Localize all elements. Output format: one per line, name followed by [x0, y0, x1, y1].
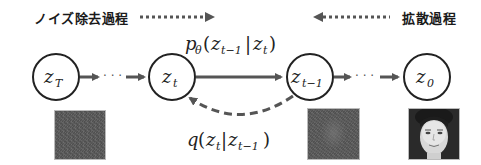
- node-z0: z 0: [404, 54, 450, 100]
- svg-text:q: q: [187, 129, 199, 150]
- svg-text:(: (: [198, 129, 205, 150]
- face-illustration: [409, 109, 459, 159]
- node-zt-minus-1: z t−1: [287, 54, 333, 100]
- svg-text:0: 0: [427, 77, 434, 90]
- svg-text:): ): [269, 33, 276, 54]
- svg-text:z: z: [227, 129, 238, 150]
- edge-zt1-to-z0: · · ·: [334, 69, 398, 83]
- noisy-face-image: [307, 108, 360, 160]
- svg-text:z: z: [415, 66, 426, 87]
- svg-text:t: t: [263, 44, 268, 57]
- svg-text:z: z: [205, 129, 216, 150]
- node-zt: z t: [149, 54, 195, 100]
- forward-transition-label: p θ ( z t−1 | z t ): [185, 33, 276, 57]
- node-zT: z T: [33, 54, 79, 100]
- svg-text:|: |: [221, 129, 227, 151]
- reverse-dashed-arc: [190, 96, 293, 115]
- svg-text:z: z: [252, 33, 263, 54]
- svg-text:z: z: [43, 66, 54, 87]
- svg-text:(: (: [203, 33, 210, 54]
- svg-text:): ): [263, 129, 270, 150]
- svg-text:t: t: [173, 77, 178, 90]
- clean-face-image: [408, 108, 460, 160]
- reverse-transition-label: q ( z t | z t−1 ): [187, 129, 270, 153]
- svg-text:θ: θ: [195, 44, 202, 57]
- svg-text:z: z: [290, 66, 301, 87]
- svg-text:|: |: [245, 33, 251, 55]
- svg-text:t−1: t−1: [302, 77, 323, 90]
- svg-text:t−1: t−1: [238, 140, 259, 153]
- edge-zT-to-zt: · · ·: [80, 69, 144, 83]
- ellipsis: · · ·: [355, 69, 374, 83]
- svg-text:z: z: [210, 33, 221, 54]
- pure-noise-image: [54, 110, 106, 160]
- ellipsis: · · ·: [103, 69, 122, 83]
- diffusion-direction-arrow: [313, 12, 390, 22]
- denoise-direction-arrow: [140, 12, 215, 22]
- svg-text:t−1: t−1: [221, 44, 242, 57]
- svg-text:z: z: [161, 66, 172, 87]
